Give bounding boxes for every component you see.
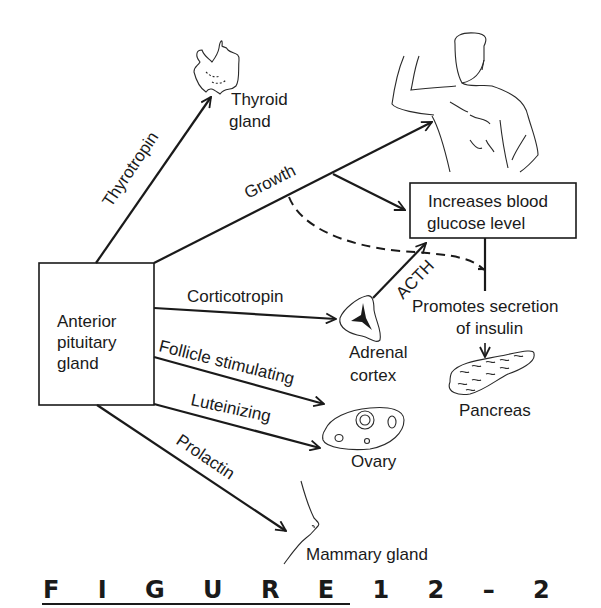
ovary-icon	[323, 408, 404, 450]
thyroid-label-2: gland	[229, 112, 271, 131]
ovary-label: Ovary	[351, 452, 397, 471]
mammary-gland-label: Mammary gland	[306, 545, 428, 564]
prolactin-arrow	[97, 405, 286, 531]
figure-caption: F I G U R E 1 2 – 2	[43, 576, 565, 604]
follicle-stimulating-label: Follicle stimulating	[157, 336, 296, 388]
adrenal-cortex-icon	[340, 296, 381, 342]
growth-arrow	[154, 122, 432, 263]
growth-to-glucose-arrow	[333, 174, 405, 210]
endocrine-diagram: Anterior pituitary gland Thyrotropin Thy…	[0, 0, 601, 608]
human-body-icon	[392, 33, 538, 172]
prolactin-label: Prolactin	[173, 431, 238, 484]
pituitary-label-2: pituitary	[57, 333, 117, 352]
luteinizing-label: Luteinizing	[189, 390, 272, 425]
insulin-label-1: Promotes secretion	[412, 297, 558, 316]
glucose-label-2: glucose level	[427, 214, 525, 233]
pancreas-icon	[449, 351, 534, 395]
corticotropin-arrow	[154, 308, 336, 319]
growth-label: Growth	[241, 161, 298, 203]
thyrotropin-label: Thyrotropin	[99, 128, 163, 210]
thyroid-label-1: Thyroid	[231, 90, 288, 109]
acth-label: ACTH	[392, 256, 438, 302]
adrenal-label-1: Adrenal	[349, 343, 408, 362]
insulin-label-2: of insulin	[456, 319, 523, 338]
glucose-label-1: Increases blood	[428, 192, 548, 211]
pancreas-label: Pancreas	[459, 401, 531, 420]
adrenal-label-2: cortex	[350, 366, 397, 385]
corticotropin-label: Corticotropin	[187, 287, 283, 306]
pituitary-label-1: Anterior	[57, 312, 117, 331]
pituitary-label-3: gland	[57, 354, 99, 373]
thyroid-gland-icon	[194, 41, 239, 94]
